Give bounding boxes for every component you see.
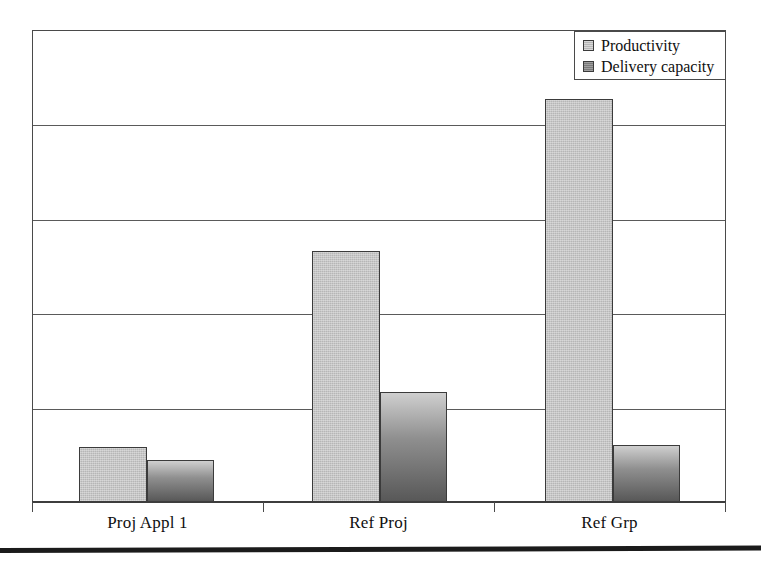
x-axis-line	[32, 501, 726, 503]
x-axis-tick-2	[494, 502, 495, 512]
legend-item-delivery-capacity: Delivery capacity	[583, 56, 725, 77]
x-axis-label-ref-proj: Ref Proj	[263, 512, 494, 534]
bar-chart-figure: Proj Appl 1 Ref Proj Ref Grp Productivit…	[0, 0, 761, 574]
legend-item-productivity: Productivity	[583, 35, 725, 56]
bar-ref-proj-productivity	[312, 251, 380, 502]
x-axis-tick-right	[725, 502, 726, 512]
x-axis-label-proj-appl-1: Proj Appl 1	[32, 512, 263, 534]
bar-ref-grp-productivity	[545, 99, 613, 502]
legend: Productivity Delivery capacity	[574, 31, 726, 80]
bar-proj-appl-1-delivery-capacity	[147, 460, 214, 503]
bottom-divider-rule	[0, 546, 761, 553]
x-axis-tick-left	[32, 502, 33, 512]
bar-ref-proj-delivery-capacity	[380, 392, 447, 502]
legend-swatch-productivity-icon	[583, 40, 594, 51]
bar-proj-appl-1-productivity	[79, 447, 147, 502]
x-axis-label-ref-grp: Ref Grp	[494, 512, 725, 534]
bars-layer	[32, 30, 726, 502]
legend-label-productivity: Productivity	[601, 37, 680, 55]
x-axis-tick-1	[263, 502, 264, 512]
bar-ref-grp-delivery-capacity	[613, 445, 680, 502]
legend-swatch-delivery-capacity-icon	[583, 61, 594, 72]
legend-label-delivery-capacity: Delivery capacity	[601, 58, 714, 76]
